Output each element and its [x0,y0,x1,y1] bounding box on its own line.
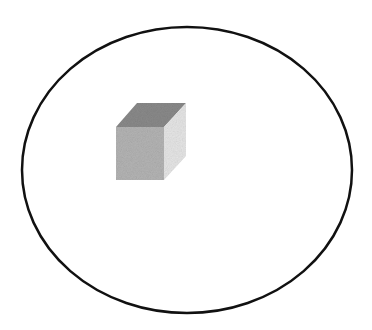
cube-icon [116,103,186,180]
boundary-ellipse [22,27,352,313]
cube-front-face [116,127,164,180]
diagram-canvas [0,0,372,330]
